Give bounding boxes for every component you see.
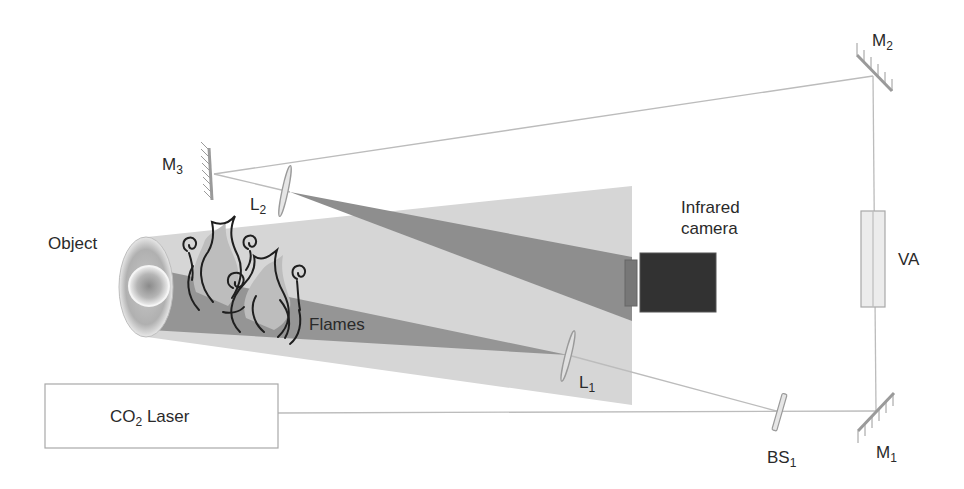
camera-window — [625, 260, 637, 306]
mirror-m3 — [201, 142, 212, 200]
label-laser-pre: CO — [110, 407, 136, 426]
label-co2-laser: CO2 Laser — [110, 408, 189, 425]
label-flames: Flames — [309, 316, 365, 333]
label-l2: L2 — [250, 196, 266, 213]
object-center — [129, 266, 169, 306]
label-l2-sub: 2 — [259, 203, 266, 217]
label-m2-main: M — [872, 31, 886, 50]
lens-l2 — [277, 165, 294, 217]
label-l1-sub: 1 — [588, 381, 595, 395]
label-va: VA — [898, 251, 919, 268]
label-m3-sub: 3 — [176, 163, 183, 177]
label-object: Object — [48, 235, 97, 252]
infrared-camera-body — [640, 253, 716, 312]
label-laser-post: Laser — [142, 407, 189, 426]
label-m3-main: M — [162, 155, 176, 174]
label-m1-sub: 1 — [890, 451, 897, 465]
label-bs1-sub: 1 — [790, 456, 797, 470]
label-m3: M3 — [162, 156, 183, 173]
label-bs1-main: BS — [767, 448, 790, 467]
label-m1: M1 — [876, 444, 897, 461]
label-bs1: BS1 — [767, 449, 796, 466]
label-l1: L1 — [579, 374, 595, 391]
label-m2-sub: 2 — [886, 39, 893, 53]
beam-splitter-bs1 — [772, 393, 787, 431]
label-m2: M2 — [872, 32, 893, 49]
label-m1-main: M — [876, 443, 890, 462]
